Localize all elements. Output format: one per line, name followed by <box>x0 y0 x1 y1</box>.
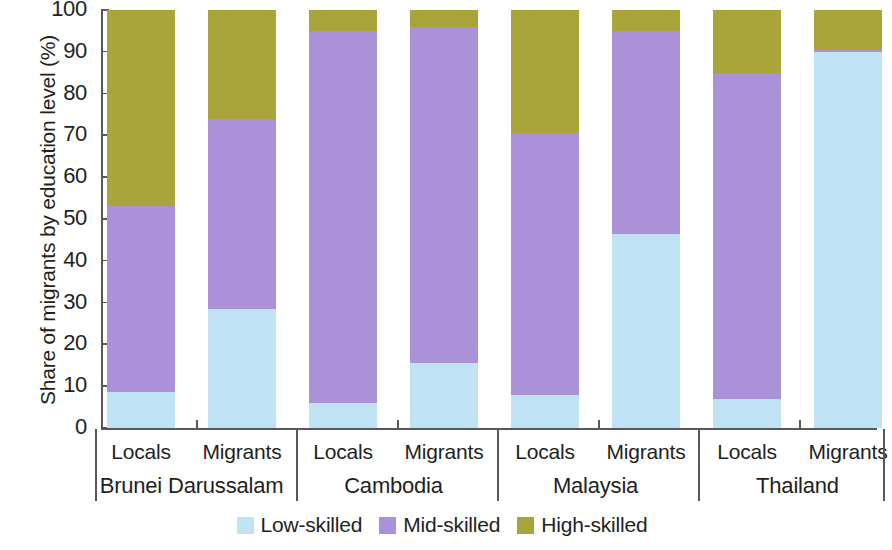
legend-label: High-skilled <box>541 513 647 537</box>
bar-segment-high-skilled <box>612 10 680 31</box>
bar-segment-mid-skilled <box>410 27 478 363</box>
y-axis-tick-label: 0 <box>75 414 87 440</box>
bar-segment-low-skilled <box>612 234 680 428</box>
y-axis-tick-label: 20 <box>63 330 87 356</box>
bar-segment-mid-skilled <box>713 73 781 399</box>
y-axis-tick-label: 40 <box>63 247 87 273</box>
bar-segment-low-skilled <box>208 309 276 428</box>
y-axis-tick-label: 10 <box>63 372 87 398</box>
bar-segment-low-skilled <box>107 392 175 428</box>
bar-segment-high-skilled <box>713 10 781 73</box>
legend-swatch-icon <box>379 517 396 534</box>
legend-item-low-skilled: Low-skilled <box>237 513 363 537</box>
bar-malaysia-migrants <box>612 10 680 428</box>
y-axis-tick-label: 80 <box>63 80 87 106</box>
bar-malaysia-locals <box>511 10 579 428</box>
x-axis-pair-tick <box>397 420 399 429</box>
legend-label: Mid-skilled <box>403 513 500 537</box>
legend-item-mid-skilled: Mid-skilled <box>379 513 500 537</box>
y-axis-tick-label: 70 <box>63 121 87 147</box>
legend-swatch-icon <box>237 517 254 534</box>
bar-thailand-locals <box>713 10 781 428</box>
y-axis-tick-label: 100 <box>51 0 87 22</box>
x-axis-pair-tick <box>196 420 198 429</box>
bar-segment-high-skilled <box>814 10 882 50</box>
legend-item-high-skilled: High-skilled <box>517 513 647 537</box>
legend-swatch-icon <box>517 517 534 534</box>
bar-thailand-migrants <box>814 10 882 428</box>
bar-segment-mid-skilled <box>107 206 175 392</box>
x-axis-group-separator <box>95 429 97 501</box>
bar-segment-low-skilled <box>309 403 377 428</box>
y-axis-tick-label: 60 <box>63 163 87 189</box>
bar-segment-low-skilled <box>713 399 781 428</box>
y-axis-tick-label: 50 <box>63 205 87 231</box>
bar-brunei-darussalam-migrants <box>208 10 276 428</box>
bar-brunei-darussalam-locals <box>107 10 175 428</box>
bar-segment-low-skilled <box>814 52 882 428</box>
x-axis-group-separator <box>883 429 885 501</box>
x-axis-pair-tick <box>799 420 801 429</box>
bar-cambodia-locals <box>309 10 377 428</box>
x-axis-sublabel-migrants: Migrants <box>788 440 892 464</box>
bar-segment-high-skilled <box>511 10 579 133</box>
bar-cambodia-migrants <box>410 10 478 428</box>
x-axis-pair-tick <box>598 420 600 429</box>
bar-segment-mid-skilled <box>511 133 579 394</box>
chart-legend: Low-skilledMid-skilledHigh-skilled <box>0 513 884 537</box>
x-axis-group-separator <box>497 429 499 501</box>
x-axis-group-label-thailand: Thailand <box>668 473 892 499</box>
x-axis-group-separator <box>296 429 298 501</box>
bar-segment-low-skilled <box>511 395 579 428</box>
y-axis-ticks: 0102030405060708090100 <box>0 10 101 428</box>
plot-area <box>101 10 877 428</box>
bar-segment-mid-skilled <box>612 31 680 234</box>
bar-segment-mid-skilled <box>309 31 377 403</box>
bar-segment-high-skilled <box>208 10 276 119</box>
bar-segment-high-skilled <box>410 10 478 27</box>
bar-segment-low-skilled <box>410 363 478 428</box>
y-axis-tick-label: 30 <box>63 289 87 315</box>
legend-label: Low-skilled <box>261 513 363 537</box>
x-axis-group-separator <box>698 429 700 501</box>
bar-segment-mid-skilled <box>208 119 276 309</box>
y-axis-tick-label: 90 <box>63 38 87 64</box>
bar-segment-high-skilled <box>309 10 377 31</box>
bar-segment-high-skilled <box>107 10 175 206</box>
x-axis-line <box>101 428 877 430</box>
